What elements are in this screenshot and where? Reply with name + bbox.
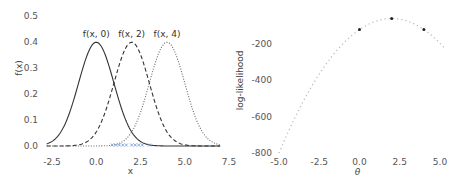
- x-tick-label: -2.5: [43, 157, 61, 167]
- sample-marker: [141, 144, 144, 147]
- y-tick-label: 0.5: [24, 11, 38, 21]
- series-annotation: f(x, 0): [83, 29, 110, 39]
- sample-marker: [121, 144, 124, 147]
- x-axis-label: θ: [355, 167, 361, 177]
- likelihood-point: [390, 17, 393, 20]
- sample-marker: [118, 144, 121, 147]
- sample-marker: [111, 144, 114, 147]
- y-tick-label: 0.2: [24, 89, 38, 99]
- y-tick-label: 0.3: [24, 63, 38, 73]
- left-chart: 0.00.10.20.30.40.5-2.50.02.55.07.5xf(x)f…: [14, 11, 236, 176]
- y-tick-label: -400: [252, 75, 273, 85]
- sample-marker: [125, 144, 128, 147]
- y-tick-label: 0.4: [24, 37, 39, 47]
- figure: 0.00.10.20.30.40.5-2.50.02.55.07.5xf(x)f…: [0, 0, 457, 185]
- x-tick-label: 0.0: [89, 157, 104, 167]
- series-line-0: [47, 42, 220, 146]
- x-tick-label: -5.0: [270, 157, 288, 167]
- y-tick-label: -600: [252, 112, 273, 122]
- y-tick-label: -200: [252, 39, 273, 49]
- right-chart: -800-600-400-200-5.0-2.50.02.55.0θlog-li…: [235, 17, 447, 177]
- x-tick-label: 7.5: [222, 157, 236, 167]
- y-axis-label: f(x): [14, 60, 24, 76]
- y-tick-label: -800: [252, 148, 273, 158]
- x-tick-label: 5.0: [433, 157, 448, 167]
- sample-marker: [134, 144, 137, 147]
- log-likelihood-curve: [279, 19, 445, 153]
- x-tick-label: -2.5: [310, 157, 328, 167]
- x-tick-label: 0.0: [352, 157, 367, 167]
- y-tick-label: 0.1: [24, 115, 38, 125]
- series-line-1: [47, 42, 220, 146]
- sample-marker: [130, 144, 133, 147]
- series-annotation: f(x, 2): [118, 29, 145, 39]
- likelihood-point: [358, 28, 361, 31]
- x-axis-label: x: [128, 166, 134, 176]
- sample-marker: [137, 144, 140, 147]
- x-tick-label: 5.0: [178, 157, 193, 167]
- likelihood-point: [422, 28, 425, 31]
- y-tick-label: 0.0: [24, 141, 39, 151]
- y-axis-label: log-likelihood: [235, 50, 245, 110]
- x-tick-label: 2.5: [133, 157, 147, 167]
- series-annotation: f(x, 4): [154, 29, 181, 39]
- series-line-2: [47, 42, 220, 146]
- x-tick-label: 2.5: [393, 157, 407, 167]
